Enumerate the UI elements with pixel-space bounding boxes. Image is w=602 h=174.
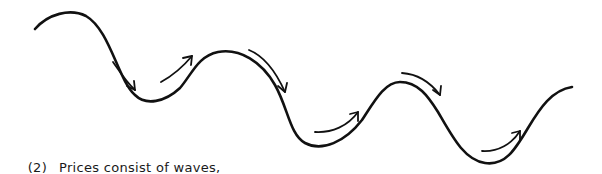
- figure-caption: (2)Prices consist of waves,: [10, 145, 220, 174]
- trend-arrow-down-icon: [113, 62, 135, 90]
- figure-number: (2): [28, 160, 47, 174]
- trend-arrow-up-icon: [315, 112, 358, 132]
- price-wave-curve: [35, 12, 572, 163]
- price-wave-diagram: (2)Prices consist of waves,: [0, 0, 602, 174]
- trend-arrow-down-icon: [249, 50, 287, 92]
- caption-punctuation: ,: [216, 160, 220, 174]
- caption-text: Prices consist of waves: [59, 160, 216, 174]
